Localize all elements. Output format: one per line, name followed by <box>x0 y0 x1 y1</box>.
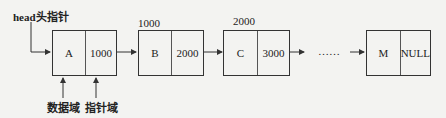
pointer-field-label: 指针域 <box>85 99 118 115</box>
pointer-cell: 3000 <box>258 31 289 75</box>
data-cell: A <box>53 31 86 75</box>
list-node-c: C 3000 <box>223 30 290 76</box>
data-cell: M <box>367 31 401 75</box>
list-node-m: M NULL <box>366 30 431 76</box>
list-node-b: B 2000 <box>138 30 204 76</box>
ellipsis: …… <box>318 45 340 57</box>
node-address: 1000 <box>138 17 160 29</box>
list-node-a: A 1000 <box>52 30 117 76</box>
data-field-label: 数据域 <box>47 99 80 115</box>
data-cell: B <box>139 31 172 75</box>
pointer-cell: 2000 <box>172 31 203 75</box>
node-address: 2000 <box>233 15 255 27</box>
pointer-cell: 1000 <box>86 31 116 75</box>
data-cell: C <box>224 31 258 75</box>
pointer-cell: NULL <box>401 31 430 75</box>
head-pointer-label: head头指针 <box>13 8 69 24</box>
